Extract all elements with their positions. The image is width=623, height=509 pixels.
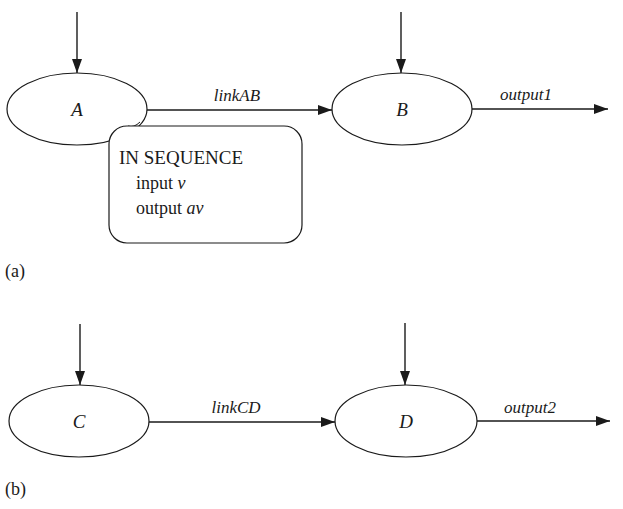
edge-output1-label: output1 bbox=[500, 85, 552, 104]
node-b[interactable]: B bbox=[332, 73, 472, 145]
node-a-label: A bbox=[69, 99, 83, 120]
node-d-label: D bbox=[398, 411, 413, 432]
edge-output2-label: output2 bbox=[504, 398, 556, 417]
annotation-title: IN SEQUENCE bbox=[119, 147, 243, 168]
node-b-label: B bbox=[396, 99, 408, 120]
node-d[interactable]: D bbox=[335, 385, 477, 457]
node-c-label: C bbox=[73, 411, 86, 432]
node-c[interactable]: C bbox=[9, 385, 149, 457]
diagram-b: C linkCD D output2 (b) bbox=[5, 323, 610, 500]
caption-b: (b) bbox=[5, 479, 26, 500]
annotation-box[interactable]: IN SEQUENCE input v output av bbox=[109, 122, 302, 243]
caption-a: (a) bbox=[5, 261, 25, 282]
edge-link-cd-label: linkCD bbox=[211, 398, 261, 417]
diagram-a: A linkAB B output1 IN SEQUENCE input v o… bbox=[5, 12, 608, 282]
annotation-line-input: input v bbox=[136, 173, 186, 193]
edge-link-ab-label: linkAB bbox=[214, 86, 261, 105]
annotation-line-output: output av bbox=[136, 198, 204, 218]
diagram-canvas: A linkAB B output1 IN SEQUENCE input v o… bbox=[0, 0, 623, 509]
